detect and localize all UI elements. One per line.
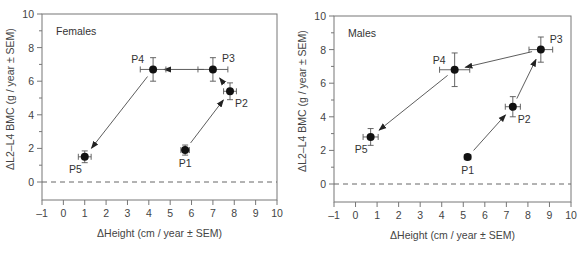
- data-point-p3: P3: [529, 33, 563, 63]
- point-marker: [451, 66, 459, 74]
- point-label: P3: [222, 52, 235, 64]
- x-tick-label: 6: [189, 207, 195, 219]
- data-point-p4: P4: [131, 53, 166, 81]
- y-tick-label: 6: [28, 75, 34, 87]
- data-point-p2: P2: [224, 83, 248, 109]
- arrow-P1-P2: [474, 115, 506, 151]
- point-label: P2: [518, 113, 531, 125]
- x-tick-label: 6: [482, 209, 488, 221]
- point-label: P2: [235, 97, 248, 109]
- plot-frame: [334, 16, 571, 202]
- x-tick-label: 5: [460, 209, 466, 221]
- panel-title: Females: [56, 25, 96, 37]
- x-tick-label: 3: [417, 209, 423, 221]
- y-tick-label: 8: [320, 44, 326, 56]
- data-point-p1: P1: [461, 153, 474, 176]
- y-tick-label: 10: [314, 10, 326, 22]
- chart-figure: 0246810–1012345678910ΔHeight (cm / year …: [0, 0, 584, 253]
- arrow-P3-P4: [465, 52, 532, 68]
- y-tick-label: 10: [22, 8, 34, 20]
- y-tick-label: 0: [28, 176, 34, 188]
- arrow-P1-P2: [191, 100, 224, 143]
- females-panel: 0246810–1012345678910ΔHeight (cm / year …: [4, 8, 283, 239]
- y-tick-label: 2: [320, 144, 326, 156]
- x-tick-label: 9: [547, 209, 553, 221]
- point-marker: [149, 65, 157, 73]
- point-marker: [537, 46, 545, 54]
- point-label: P5: [355, 143, 368, 155]
- arrow-P4-P5: [379, 75, 447, 130]
- data-point-p4: P4: [433, 53, 470, 87]
- x-tick-label: 5: [167, 207, 173, 219]
- point-label: P3: [550, 33, 563, 45]
- y-tick-label: 8: [28, 42, 34, 54]
- point-marker: [81, 153, 89, 161]
- x-tick-label: –1: [36, 207, 48, 219]
- point-marker: [181, 146, 189, 154]
- point-marker: [464, 153, 472, 161]
- y-tick-label: 6: [320, 77, 326, 89]
- y-axis-title: ΔL2–L4 BMC (g / year ± SEM): [296, 30, 308, 172]
- x-tick-label: 2: [103, 207, 109, 219]
- y-axis-title: ΔL2–L4 BMC (g / year ± SEM): [4, 28, 16, 170]
- x-tick-label: 1: [82, 207, 88, 219]
- x-tick-label: 4: [146, 207, 152, 219]
- x-tick-label: 7: [210, 207, 216, 219]
- x-axis-title: ΔHeight (cm / year ± SEM): [390, 229, 515, 241]
- x-tick-label: 10: [271, 207, 283, 219]
- x-tick-label: 0: [60, 207, 66, 219]
- point-marker: [367, 133, 375, 141]
- data-point-p1: P1: [179, 145, 192, 169]
- x-tick-label: 8: [231, 207, 237, 219]
- panel-title: Males: [348, 27, 376, 39]
- x-tick-label: 3: [125, 207, 131, 219]
- x-tick-label: 1: [374, 209, 380, 221]
- arrow-P2-P3: [220, 78, 225, 84]
- data-point-p2: P2: [505, 97, 531, 125]
- x-tick-label: –1: [328, 209, 340, 221]
- x-axis-title: ΔHeight (cm / year ± SEM): [97, 227, 222, 239]
- y-tick-label: 2: [28, 142, 34, 154]
- data-point-p3: P3: [198, 52, 235, 81]
- point-label: P1: [179, 157, 192, 169]
- x-tick-label: 8: [525, 209, 531, 221]
- x-tick-label: 7: [503, 209, 509, 221]
- point-marker: [209, 65, 217, 73]
- x-tick-label: 9: [253, 207, 259, 219]
- data-point-p5: P5: [355, 129, 378, 155]
- x-tick-label: 10: [565, 209, 577, 221]
- x-tick-label: 2: [396, 209, 402, 221]
- x-tick-label: 4: [439, 209, 445, 221]
- arrow-P4-P5: [92, 77, 148, 149]
- y-tick-label: 4: [28, 109, 34, 121]
- arrow-P2-P3: [517, 59, 536, 98]
- point-marker: [226, 87, 234, 95]
- y-tick-label: 0: [320, 178, 326, 190]
- data-point-p5: P5: [69, 151, 91, 175]
- males-panel: 0246810–1012345678910ΔHeight (cm / year …: [296, 10, 577, 241]
- point-label: P1: [461, 164, 474, 176]
- y-tick-label: 4: [320, 111, 326, 123]
- point-label: P4: [433, 54, 446, 66]
- point-label: P4: [131, 53, 144, 65]
- x-tick-label: 0: [353, 209, 359, 221]
- point-label: P5: [69, 163, 82, 175]
- point-marker: [509, 103, 517, 111]
